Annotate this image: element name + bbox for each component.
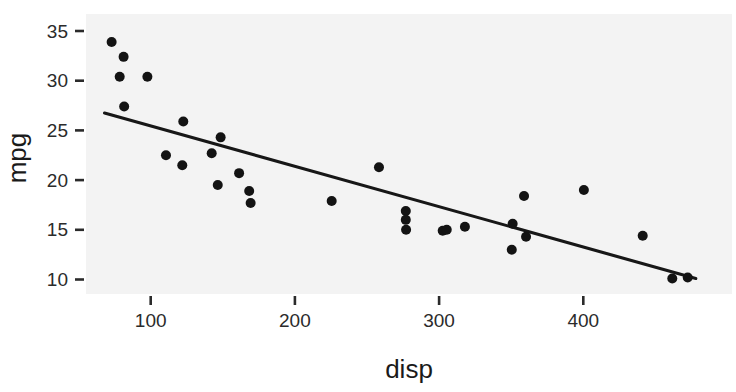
- data-point: [115, 72, 125, 82]
- data-point: [246, 198, 256, 208]
- data-point: [667, 274, 677, 284]
- data-point: [401, 225, 411, 235]
- data-point: [507, 245, 517, 255]
- plot-canvas: 101520253035 100200300400 disp mpg: [0, 0, 736, 392]
- y-tick-label: 25: [47, 120, 68, 141]
- y-axis-tick-marks: [75, 31, 84, 280]
- data-point: [460, 222, 470, 232]
- data-point: [638, 231, 648, 241]
- y-tick-label: 10: [47, 269, 68, 290]
- y-tick-label: 30: [47, 70, 68, 91]
- data-point: [244, 186, 254, 196]
- data-point: [178, 116, 188, 126]
- data-point: [119, 52, 129, 62]
- y-axis-tick-labels: 101520253035: [47, 21, 68, 291]
- data-point: [401, 215, 411, 225]
- x-tick-label: 300: [423, 310, 455, 331]
- y-axis-title: mpg: [2, 133, 32, 184]
- scatter-plot-figure: 101520253035 100200300400 disp mpg: [0, 0, 736, 392]
- data-point: [683, 273, 693, 283]
- data-point: [207, 148, 217, 158]
- y-tick-label: 15: [47, 219, 68, 240]
- data-point: [119, 102, 129, 112]
- data-point: [107, 37, 117, 47]
- x-axis-title: disp: [385, 354, 433, 384]
- x-tick-label: 400: [567, 310, 599, 331]
- y-tick-label: 35: [47, 21, 68, 42]
- x-tick-label: 200: [279, 310, 311, 331]
- data-point: [579, 185, 589, 195]
- data-point: [442, 225, 452, 235]
- x-axis-tick-marks: [151, 296, 584, 305]
- data-point: [521, 232, 531, 242]
- data-point: [508, 219, 518, 229]
- data-point: [374, 162, 384, 172]
- data-point: [519, 191, 529, 201]
- x-axis-tick-labels: 100200300400: [135, 310, 599, 331]
- data-point: [177, 160, 187, 170]
- data-point: [213, 180, 223, 190]
- data-point: [234, 168, 244, 178]
- y-tick-label: 20: [47, 170, 68, 191]
- data-point: [327, 196, 337, 206]
- plot-panel-background: [86, 14, 732, 294]
- data-point: [161, 150, 171, 160]
- data-point: [401, 206, 411, 216]
- data-point: [142, 72, 152, 82]
- x-tick-label: 100: [135, 310, 167, 331]
- data-point: [216, 132, 226, 142]
